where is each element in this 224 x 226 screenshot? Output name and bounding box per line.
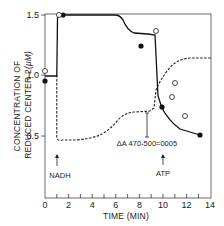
nadh-label: NADH <box>49 171 70 180</box>
svg-text:12: 12 <box>182 200 192 210</box>
y-axis-label-line2: REDUCED CENTER 2 <box>23 69 33 159</box>
svg-text:0: 0 <box>42 200 47 210</box>
chart: 1.5 1.0 0.5 0 2 4 6 8 10 12 14 TIME (MIN… <box>0 0 224 226</box>
atp-arrow-icon <box>161 154 165 165</box>
x-axis-label: TIME (MIN) <box>103 211 149 221</box>
svg-text:4: 4 <box>90 200 95 210</box>
solid-center2-curve <box>45 15 200 135</box>
x-tick-labels: 0 2 4 6 8 10 12 14 <box>42 200 215 210</box>
y-tick-1.5: 1.5 <box>26 10 39 20</box>
scale-bar-label: ΔA 470-500=0005 <box>117 139 177 148</box>
dashed-absorbance-curve <box>57 58 211 140</box>
y-axis-label-line1: CONCENTRATION OF <box>12 61 22 152</box>
open-data-points <box>43 13 188 119</box>
svg-text:14: 14 <box>205 200 215 210</box>
filled-data-points <box>42 12 202 137</box>
nadh-arrow-icon <box>55 154 59 166</box>
y-axis-label-unit: (μM) <box>23 51 33 69</box>
svg-text:10: 10 <box>158 200 168 210</box>
svg-text:8: 8 <box>137 200 142 210</box>
y-axis-label: CONCENTRATION OF REDUCED CENTER 2 (μM) <box>12 51 33 159</box>
x-axis <box>57 194 199 198</box>
scale-bar <box>145 113 149 137</box>
svg-text:2: 2 <box>66 200 71 210</box>
svg-text:6: 6 <box>113 200 118 210</box>
atp-label: ATP <box>156 169 170 178</box>
